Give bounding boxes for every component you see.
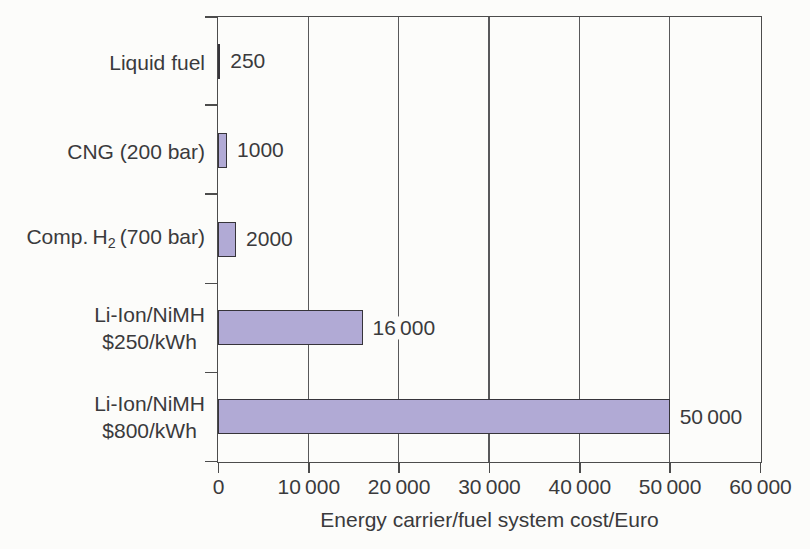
x-axis-tick bbox=[669, 463, 671, 473]
x-axis-tick bbox=[579, 463, 581, 473]
bar bbox=[218, 399, 670, 434]
category-label-text: Liquid fuel bbox=[109, 50, 205, 73]
x-tick-label: 0 bbox=[213, 475, 225, 499]
value-label: 2000 bbox=[243, 227, 296, 250]
bar bbox=[218, 310, 363, 345]
value-label: 1000 bbox=[234, 139, 287, 162]
gridline bbox=[308, 17, 309, 462]
y-axis-tick bbox=[205, 461, 218, 463]
x-tick-label: 40 000 bbox=[549, 475, 612, 499]
x-axis-tick bbox=[218, 463, 220, 473]
value-label: 250 bbox=[227, 50, 268, 73]
x-axis-tick bbox=[489, 463, 491, 473]
category-label-text: Li-Ion/NiMH bbox=[94, 392, 205, 415]
gridline bbox=[398, 17, 399, 462]
category-label-text: $250/kWh bbox=[102, 330, 197, 353]
category-label-text: 2 bbox=[108, 234, 116, 250]
bar bbox=[218, 44, 220, 79]
value-label: 50 000 bbox=[677, 405, 746, 428]
x-axis-tick bbox=[398, 463, 400, 473]
category-label: Li-Ion/NiMH$250/kWh bbox=[94, 301, 205, 355]
category-label-line: Liquid fuel bbox=[109, 48, 205, 75]
y-axis-tick bbox=[205, 16, 218, 18]
category-label: Comp. H2 (700 bar) bbox=[26, 223, 205, 257]
value-label: 16 000 bbox=[370, 316, 439, 339]
x-tick-label: 50 000 bbox=[639, 475, 702, 499]
gridline bbox=[669, 17, 670, 462]
category-label: Li-Ion/NiMH$800/kWh bbox=[94, 390, 205, 444]
y-axis-tick bbox=[205, 193, 218, 195]
bar-chart-figure: 2501000200016 00050 000 Energy carrier/f… bbox=[0, 0, 810, 549]
x-tick-label: 20 000 bbox=[368, 475, 431, 499]
y-axis-tick bbox=[205, 104, 218, 106]
category-label: Liquid fuel bbox=[109, 48, 205, 75]
y-axis-tick bbox=[205, 283, 218, 285]
category-label-text: Comp. H bbox=[26, 225, 107, 248]
category-label: CNG (200 bar) bbox=[67, 137, 205, 164]
x-tick-label: 60 000 bbox=[729, 475, 792, 499]
category-label-line: CNG (200 bar) bbox=[67, 137, 205, 164]
bar bbox=[218, 133, 227, 168]
gridline bbox=[579, 17, 580, 462]
x-tick-label: 10 000 bbox=[278, 475, 341, 499]
category-label-line: Li-Ion/NiMH bbox=[94, 390, 205, 417]
category-label-text: (700 bar) bbox=[116, 225, 205, 248]
category-label-line: $250/kWh bbox=[94, 328, 205, 355]
category-label-line: $800/kWh bbox=[94, 417, 205, 444]
x-axis-tick bbox=[308, 463, 310, 473]
category-label-text: Li-Ion/NiMH bbox=[94, 303, 205, 326]
bar bbox=[218, 222, 236, 257]
category-label-line: Comp. H2 (700 bar) bbox=[26, 223, 205, 257]
gridline bbox=[488, 17, 489, 462]
category-label-text: $800/kWh bbox=[102, 419, 197, 442]
x-tick-label: 30 000 bbox=[458, 475, 521, 499]
y-axis-tick bbox=[205, 372, 218, 374]
category-label-line: Li-Ion/NiMH bbox=[94, 301, 205, 328]
x-axis-title: Energy carrier/fuel system cost/Euro bbox=[320, 508, 658, 532]
category-label-text: CNG (200 bar) bbox=[67, 139, 205, 162]
plot-area: 2501000200016 00050 000 bbox=[217, 16, 762, 463]
x-axis-tick bbox=[760, 463, 762, 473]
